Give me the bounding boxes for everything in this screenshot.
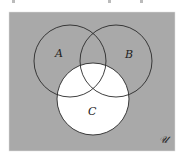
set-c-label: C xyxy=(88,105,97,118)
venn-diagram: A B C 𝒰 xyxy=(0,0,180,155)
set-b-label: B xyxy=(124,48,133,61)
set-a-label: A xyxy=(54,47,63,60)
